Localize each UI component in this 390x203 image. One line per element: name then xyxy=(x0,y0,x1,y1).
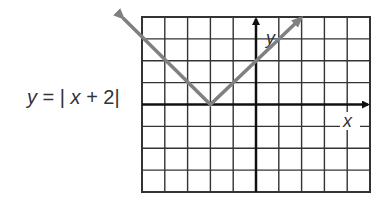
x-axis-label: x xyxy=(342,111,353,131)
graph: x y xyxy=(0,0,390,203)
